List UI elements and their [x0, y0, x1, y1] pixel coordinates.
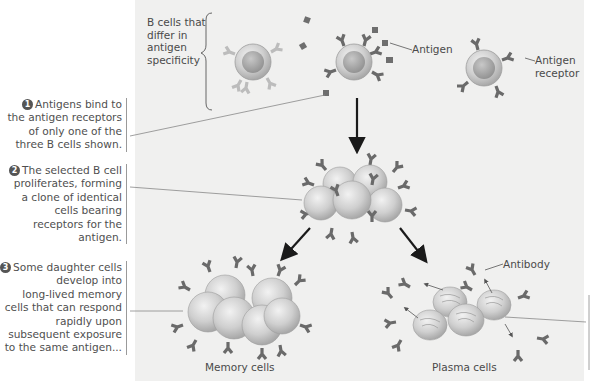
arrow-to-memory	[283, 228, 310, 258]
diagram-graphics	[0, 0, 592, 381]
clone-cluster	[300, 153, 416, 243]
bracket	[201, 13, 212, 110]
b-cell-3	[457, 38, 514, 97]
step-2-leader	[130, 187, 302, 200]
memory-cells-cluster	[171, 256, 311, 359]
antigen-receptor-leader	[525, 58, 535, 61]
antibody-leader	[485, 264, 503, 270]
antigen-leader	[390, 43, 412, 50]
b-cell-selected	[324, 34, 383, 81]
plasma-cells-cluster	[382, 263, 549, 361]
plasma-leader	[505, 317, 586, 322]
arrow-to-plasma	[400, 228, 425, 260]
b-cell-1	[223, 43, 282, 93]
step-1-leader	[130, 95, 325, 136]
